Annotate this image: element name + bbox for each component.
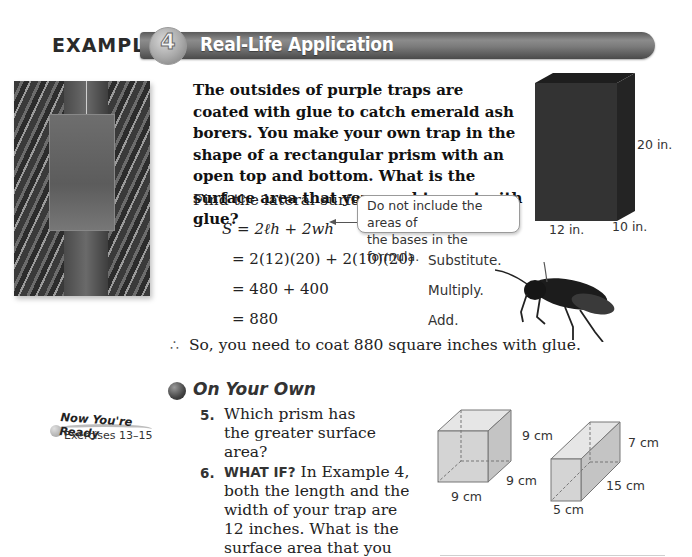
formula-callout: Do not include the areas of the bases in… — [357, 195, 520, 233]
step-label-add: Add. — [428, 312, 458, 328]
callout-line-1: Do not include the areas of — [367, 197, 519, 231]
prism-small-height-label: 7 cm — [628, 435, 659, 450]
exercise-number: 5. — [200, 406, 215, 425]
prism-length-label: 12 in. — [549, 222, 584, 237]
conclusion-text: So, you need to coat 880 square inches w… — [189, 336, 581, 354]
prism-height-label: 20 in. — [637, 137, 672, 152]
on-your-own-ball-icon — [168, 382, 186, 400]
prism-width-label: 10 in. — [612, 219, 647, 234]
solution-step-multiply: = 480 + 400 — [232, 280, 329, 298]
therefore-dots-icon: ∴ — [170, 337, 177, 353]
callout-arrow — [334, 222, 358, 223]
nyr-exercises: Exercises 13–15 — [64, 429, 153, 442]
cube-height-label: 9 cm — [522, 428, 553, 443]
bottom-divider — [440, 555, 665, 556]
step-label-multiply: Multiply. — [428, 282, 484, 298]
solution-step-formula: S = 2ℓh + 2wh — [222, 220, 334, 238]
rectangular-prism-figure — [535, 73, 635, 223]
exercise-number: 6. — [200, 464, 215, 483]
exercise-item-5: 5. Which prism has the greater surface a… — [200, 405, 430, 462]
example-number: 4 — [149, 29, 187, 54]
exercise-keyword: WHAT IF? — [224, 464, 296, 480]
on-your-own-title: On Your Own — [193, 379, 316, 399]
conclusion: ∴So, you need to coat 880 square inches … — [170, 336, 581, 354]
solution-step-add: = 880 — [232, 310, 278, 328]
cube-figure — [438, 410, 511, 482]
cube-width-label: 9 cm — [451, 489, 482, 504]
exercise-item-6: 6. WHAT IF? In Example 4, both the lengt… — [200, 463, 430, 557]
prism-small-depth-label: 15 cm — [606, 478, 645, 493]
cube-depth-label: 9 cm — [506, 473, 537, 488]
example-title: Real-Life Application — [200, 33, 394, 55]
emerald-ash-borer-image — [495, 252, 625, 342]
trap-panel — [49, 114, 115, 231]
exercise-body: WHAT IF? In Example 4, both the length a… — [224, 463, 414, 557]
now-youre-ready-link[interactable]: Now You're Ready Exercises 13–15 — [48, 410, 158, 442]
trap-string — [86, 81, 87, 115]
trap-photo — [14, 81, 150, 296]
step-label-substitute: Substitute. — [428, 252, 502, 268]
solution-step-substitute: = 2(12)(20) + 2(10)(20) — [232, 250, 414, 268]
prism-small-width-label: 5 cm — [553, 502, 584, 517]
exercise-text: Which prism has the greater surface area… — [224, 405, 384, 462]
